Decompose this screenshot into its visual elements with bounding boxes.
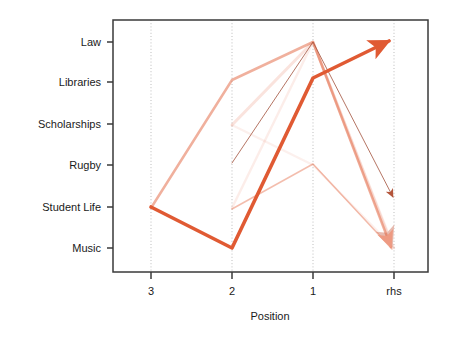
- y-ticks: [107, 42, 113, 248]
- y-tick-label-law: Law: [81, 36, 101, 48]
- x-tick-labels: 3 2 1 rhs: [148, 285, 402, 297]
- parallel-coordinates-chart: Law Libraries Scholarships Rugby Student…: [0, 0, 458, 338]
- x-tick-label-3: 3: [148, 285, 154, 297]
- x-axis-title: Position: [250, 310, 289, 322]
- y-tick-label-student-life: Student Life: [42, 201, 101, 213]
- y-tick-labels: Law Libraries Scholarships Rugby Student…: [38, 36, 101, 254]
- chart-container: Law Libraries Scholarships Rugby Student…: [0, 0, 458, 338]
- y-tick-label-scholarships: Scholarships: [38, 118, 101, 130]
- y-tick-label-music: Music: [72, 242, 101, 254]
- x-tick-label-2: 2: [229, 285, 235, 297]
- x-tick-label-rhs: rhs: [386, 285, 402, 297]
- x-ticks: [151, 272, 394, 279]
- x-tick-label-1: 1: [310, 285, 316, 297]
- y-tick-label-libraries: Libraries: [59, 76, 102, 88]
- y-tick-label-rugby: Rugby: [69, 159, 101, 171]
